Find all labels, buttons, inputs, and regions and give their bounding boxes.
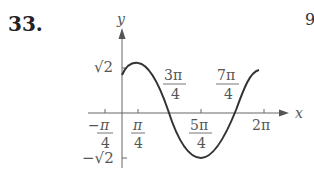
x-axis-arrow-icon	[279, 110, 289, 117]
label-7pi4-num: 7π	[217, 67, 235, 83]
label-neg-pi4-sign: −	[88, 117, 100, 133]
label-pi4-num: π	[132, 117, 143, 133]
label-7pi4-den: 4	[224, 86, 233, 102]
label-2pi: 2π	[252, 117, 270, 133]
label-5pi4-den: 4	[197, 135, 206, 151]
label-neg-sqrt2: −√2	[82, 149, 114, 167]
sinusoid-graph: y x √2 −√2 − π 4 π 4 3π 4 5π 4 7π 4 2π	[0, 0, 314, 170]
label-pi4-den: 4	[134, 135, 143, 151]
label-5pi4-num: 5π	[190, 117, 208, 133]
y-axis-arrow-icon	[119, 28, 126, 39]
label-neg-pi4-den: 4	[101, 135, 110, 151]
label-3pi4-num: 3π	[164, 67, 182, 83]
label-neg-pi4-num: π	[99, 117, 110, 133]
x-axis-label: x	[295, 105, 303, 121]
y-axis-label: y	[116, 11, 126, 27]
label-3pi4-den: 4	[171, 86, 180, 102]
label-sqrt2: √2	[94, 58, 113, 76]
